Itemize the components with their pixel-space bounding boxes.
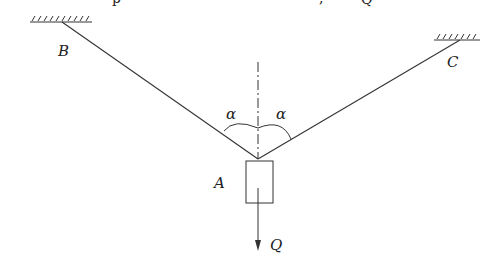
label-A: A	[214, 176, 225, 191]
cropped-text-fragment: p	[112, 0, 121, 5]
cropped-text-fragment: Q	[361, 0, 372, 6]
angle-arc-right	[258, 125, 291, 139]
block-A	[246, 161, 273, 203]
angle-arc-left	[224, 124, 258, 131]
label-C: C	[447, 55, 458, 70]
diagram-canvas	[0, 0, 496, 275]
rope-AB	[62, 22, 258, 159]
label-alpha-right: α	[276, 107, 286, 122]
ceiling-support-right	[434, 34, 480, 40]
label-alpha-left: α	[226, 107, 236, 122]
label-B: B	[58, 44, 69, 59]
rope-AC	[258, 40, 460, 159]
arrowhead-down-icon	[255, 240, 261, 251]
cropped-text-fragment: ,	[319, 0, 323, 5]
label-Q: Q	[270, 238, 282, 253]
ceiling-support-left	[30, 16, 92, 22]
